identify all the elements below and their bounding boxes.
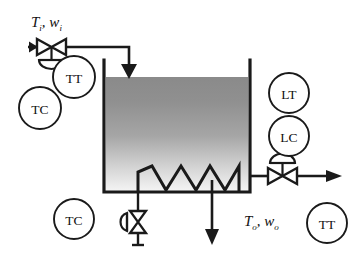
process-diagram-canvas: TT TC LT LC TC TT Ti, wi To, w xyxy=(0,0,361,255)
inlet-stream-label: Ti, wi xyxy=(31,15,62,33)
inlet-flow-subscript: i xyxy=(59,23,62,33)
instrument-bubble-tt-outlet[interactable]: TT xyxy=(307,203,347,243)
outlet-flow-symbol: w xyxy=(264,213,274,229)
instrument-bubble-lt[interactable]: LT xyxy=(269,73,309,113)
instrument-bubble-lc[interactable]: LC xyxy=(269,116,309,156)
instrument-tag-label: LC xyxy=(280,130,297,145)
outlet-stream-label: To, wo xyxy=(244,214,279,232)
instrument-bubble-tt-inlet[interactable]: TT xyxy=(53,56,95,98)
outlet-flow-arrow xyxy=(326,170,342,182)
instrument-bubble-tc-inlet[interactable]: TC xyxy=(19,87,61,129)
inlet-flow-symbol: w xyxy=(49,14,59,30)
steam-valve-body xyxy=(130,211,146,233)
drain-flow-arrow xyxy=(205,229,219,245)
outlet-flow-subscript: o xyxy=(274,222,279,232)
instrument-tag-label: TC xyxy=(65,213,82,228)
instrument-tag-label: TC xyxy=(31,102,48,117)
diagram-svg: TT TC LT LC TC TT xyxy=(0,0,361,255)
instrument-tag-label: TT xyxy=(319,217,336,232)
instrument-tag-label: LT xyxy=(281,87,297,102)
inlet-flow-arrow xyxy=(121,64,137,79)
instrument-tag-label: TT xyxy=(66,71,83,86)
instrument-bubble-tc-steam[interactable]: TC xyxy=(54,199,94,239)
